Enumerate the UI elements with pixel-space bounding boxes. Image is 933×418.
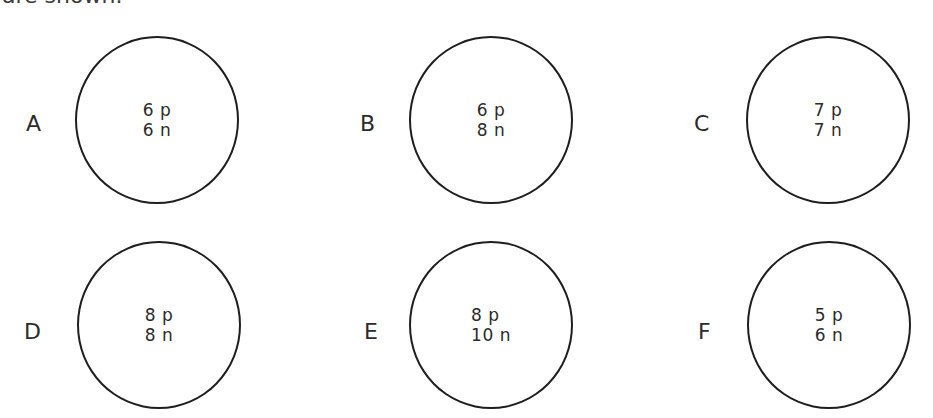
composition: 7 p 7 n [814,100,843,140]
nucleus-circle: 8 p 10 n [409,241,573,409]
nucleus-circle: 8 p 8 n [77,241,241,409]
nucleus-circle: 6 p 8 n [409,36,573,204]
neutron-count: 8 n [145,325,174,345]
atom-label: E [364,321,378,343]
neutron-count: 10 n [471,325,511,345]
proton-count: 5 p [815,305,844,325]
atom-label: F [698,321,711,343]
proton-count: 8 p [145,305,174,325]
neutron-count: 6 n [815,325,844,345]
atom-f: F 5 p 6 n [0,0,300,190]
proton-count: 6 p [477,100,506,120]
nucleus-circle: 7 p 7 n [746,36,910,204]
atom-label: C [694,113,709,135]
proton-count: 8 p [471,305,511,325]
neutron-count: 7 n [814,120,843,140]
composition: 8 p 8 n [145,305,174,345]
composition: 8 p 10 n [471,305,511,345]
composition: 6 p 8 n [477,100,506,140]
proton-count: 7 p [814,100,843,120]
composition: 5 p 6 n [815,305,844,345]
nucleus-circle: 5 p 6 n [747,241,911,409]
atom-label: D [24,321,41,343]
atom-label: B [360,113,375,135]
neutron-count: 8 n [477,120,506,140]
